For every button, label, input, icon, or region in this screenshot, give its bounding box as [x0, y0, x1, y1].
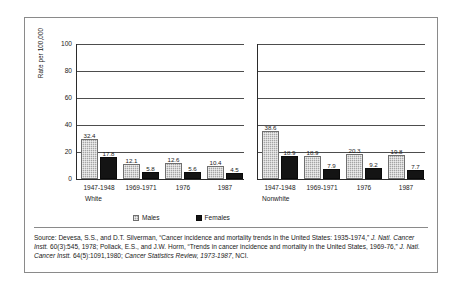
chart-legend: Males Females [133, 214, 230, 222]
bar-value-nonwhite-males-1987: 19.8 [390, 148, 402, 155]
bar-white-females-1976[interactable]: 5.6 [184, 172, 201, 179]
y-tick-label-0: 0 [50, 175, 72, 182]
bar-value-white-females-1947-1948: 17.8 [102, 150, 114, 157]
source-text-4: , NCI. [232, 252, 249, 259]
y-axis-title: Rate per 100,000 [37, 10, 47, 96]
bar-value-white-females-1976: 5.6 [188, 165, 197, 172]
y-tick-label-100: 100 [50, 40, 72, 47]
source-text-2: 60(3):545, 1978; Pollack, E.S., and J.W.… [48, 243, 399, 250]
bar-nonwhite-males-1987[interactable]: 19.8 [388, 155, 405, 180]
legend-swatch-females-icon [196, 215, 202, 221]
x-tick-white-1987: 1987 [195, 184, 255, 192]
bar-white-males-1976[interactable]: 12.6 [165, 163, 182, 179]
bar-white-females-1987[interactable]: 4.5 [226, 173, 243, 179]
source-divider [34, 227, 428, 228]
bar-value-nonwhite-males-1976: 20.3 [348, 147, 360, 154]
bar-value-white-males-1969-1971: 12.1 [125, 157, 137, 164]
bar-value-nonwhite-females-1947-1948: 18.9 [283, 149, 295, 156]
bar-group-white-1976: 12.6 5.6 [163, 43, 205, 179]
bar-white-males-1947-1948[interactable]: 32.4 [81, 139, 98, 179]
figure-frame: Rate per 100,000 100 80 60 40 20 0 32.4 [24, 17, 438, 273]
bar-value-white-males-1947-1948: 32.4 [83, 132, 95, 139]
plot-area: Rate per 100,000 100 80 60 40 20 0 32.4 [38, 28, 426, 200]
y-tick-label-80: 80 [50, 67, 72, 74]
source-publication-3: Cancer Statistics Review, 1973-1987 [125, 252, 232, 259]
panel-caption-white: White [85, 195, 102, 203]
legend-label-males: Males [142, 214, 160, 222]
source-text-3: 64(5):1091,1980; [71, 252, 125, 259]
panel-caption-nonwhite: Nonwhite [262, 195, 290, 203]
bar-white-males-1969-1971[interactable]: 12.1 [123, 164, 140, 179]
bar-value-nonwhite-females-1969-1971: 7.9 [327, 162, 336, 169]
y-tick-label-20: 20 [50, 148, 72, 155]
bar-value-white-females-1987: 4.5 [230, 166, 239, 173]
bar-nonwhite-males-1976[interactable]: 20.3 [346, 154, 363, 179]
bar-nonwhite-females-1947-1948[interactable]: 18.9 [281, 156, 298, 179]
panel-nonwhite: 38.6 18.9 18.9 7.9 20.3 9.2 [258, 28, 426, 200]
source-text-1: Source: Devesa, S.S., and D.T. Silverman… [34, 234, 371, 241]
legend-label-females: Females [205, 214, 230, 222]
bar-value-nonwhite-females-1987: 7.7 [411, 163, 420, 170]
bar-nonwhite-males-1969-1971[interactable]: 18.9 [304, 156, 321, 179]
bar-group-nonwhite-1976: 20.3 9.2 [344, 43, 386, 179]
bar-value-white-males-1976: 12.6 [167, 156, 179, 163]
source-note: Source: Devesa, S.S., and D.T. Silverman… [34, 233, 430, 260]
bar-nonwhite-females-1987[interactable]: 7.7 [407, 170, 424, 180]
x-tick-nonwhite-1987: 1987 [376, 184, 436, 192]
legend-swatch-males-icon [133, 215, 139, 221]
bar-nonwhite-females-1969-1971[interactable]: 7.9 [323, 169, 340, 179]
bar-group-white-1987: 10.4 4.5 [205, 43, 247, 179]
legend-item-females[interactable]: Females [196, 214, 230, 222]
bar-value-nonwhite-females-1976: 9.2 [369, 161, 378, 168]
bar-white-females-1969-1971[interactable]: 5.8 [142, 172, 159, 179]
bar-group-nonwhite-1987: 19.8 7.7 [386, 43, 428, 179]
bar-nonwhite-females-1976[interactable]: 9.2 [365, 168, 382, 179]
bar-group-nonwhite-1947-1948: 38.6 18.9 [260, 43, 302, 179]
y-tick-label-40: 40 [50, 121, 72, 128]
legend-item-males[interactable]: Males [133, 214, 160, 222]
bar-white-males-1987[interactable]: 10.4 [207, 166, 224, 179]
bar-group-white-1947-1948: 32.4 17.8 [79, 43, 121, 179]
y-tick-label-60: 60 [50, 94, 72, 101]
bar-nonwhite-males-1947-1948[interactable]: 38.6 [262, 131, 279, 179]
bar-value-white-females-1969-1971: 5.8 [146, 165, 155, 172]
bar-value-nonwhite-males-1969-1971: 18.9 [306, 149, 318, 156]
bar-value-nonwhite-males-1947-1948: 38.6 [264, 124, 276, 131]
panel-white: 32.4 17.8 12.1 5.8 12.6 5.6 [77, 28, 245, 200]
bar-group-nonwhite-1969-1971: 18.9 7.9 [302, 43, 344, 179]
bar-value-white-males-1987: 10.4 [209, 159, 221, 166]
bar-group-white-1969-1971: 12.1 5.8 [121, 43, 163, 179]
bar-white-females-1947-1948[interactable]: 17.8 [100, 157, 117, 179]
